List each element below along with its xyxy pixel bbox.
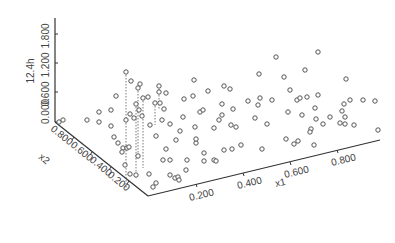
data-point <box>148 123 152 127</box>
scatter3d-plot: 0.000 0.600 1.200 1.800 12.4h 0.800 0.60… <box>0 0 395 243</box>
svg-text:0.800: 0.800 <box>330 152 357 168</box>
data-point <box>214 159 218 163</box>
data-point <box>123 163 127 167</box>
data-point <box>260 147 264 151</box>
data-point <box>239 143 243 147</box>
data-point <box>308 130 312 134</box>
z-axis-label: 12.4h <box>25 58 36 83</box>
data-point <box>256 103 260 107</box>
data-point <box>284 137 288 141</box>
data-point <box>282 75 286 79</box>
data-point <box>258 96 262 100</box>
data-point <box>120 150 124 154</box>
data-point <box>128 112 132 116</box>
data-point <box>217 118 221 122</box>
data-point <box>230 147 234 151</box>
data-point <box>292 142 296 146</box>
data-point <box>212 126 216 130</box>
data-point <box>257 72 261 76</box>
data-point <box>168 158 172 162</box>
data-point <box>193 125 197 129</box>
data-point <box>161 158 165 162</box>
data-point <box>157 84 161 88</box>
data-point <box>138 82 142 86</box>
data-point <box>313 106 317 110</box>
data-point <box>112 135 116 139</box>
data-point <box>184 168 188 172</box>
data-point <box>114 94 118 98</box>
data-point <box>177 178 181 182</box>
data-point <box>328 115 332 119</box>
data-point <box>296 139 300 143</box>
data-point <box>168 173 172 177</box>
data-point <box>157 90 161 94</box>
data-point <box>151 185 155 189</box>
data-point <box>160 118 164 122</box>
data-point <box>343 122 347 126</box>
data-point <box>314 117 318 121</box>
data-point <box>116 141 120 145</box>
svg-text:0.200: 0.200 <box>188 187 215 203</box>
data-point <box>202 151 206 155</box>
data-point <box>158 101 162 105</box>
data-point <box>61 118 65 122</box>
data-point <box>343 115 347 119</box>
data-point <box>305 95 309 99</box>
data-point <box>140 114 144 118</box>
x2-tick-labels: 0.800 0.600 0.400 0.200 <box>49 123 133 194</box>
data-point <box>303 68 307 72</box>
data-point <box>231 107 235 111</box>
z-tick-labels: 0.000 0.600 1.200 1.800 <box>40 23 51 124</box>
data-point <box>146 95 150 99</box>
data-point <box>147 172 151 176</box>
data-point <box>185 158 189 162</box>
data-point <box>192 78 196 82</box>
data-point <box>220 102 224 106</box>
data-point <box>229 123 233 127</box>
data-point <box>342 102 346 106</box>
svg-text:0.600: 0.600 <box>283 164 310 180</box>
data-point <box>265 122 269 126</box>
svg-text:0.400: 0.400 <box>236 175 263 191</box>
data-point <box>191 94 195 98</box>
svg-text:0.600: 0.600 <box>40 81 51 106</box>
data-point <box>222 84 226 88</box>
data-point <box>134 173 138 177</box>
data-point <box>153 101 157 105</box>
svg-text:1.800: 1.800 <box>40 23 51 48</box>
data-point <box>97 120 101 124</box>
data-point <box>253 116 257 120</box>
data-point <box>201 108 205 112</box>
data-point <box>168 122 172 126</box>
data-point <box>376 128 380 132</box>
data-point <box>178 129 182 133</box>
data-point <box>154 134 158 138</box>
data-point <box>124 118 128 122</box>
data-point <box>316 93 320 97</box>
data-point <box>220 113 224 117</box>
data-point <box>132 116 136 120</box>
data-point <box>97 110 101 114</box>
svg-text:1.200: 1.200 <box>40 52 51 77</box>
data-point <box>344 77 348 81</box>
data-point <box>109 108 113 112</box>
x2-axis-label: x2 <box>37 151 52 166</box>
data-point <box>288 88 292 92</box>
data-point <box>182 97 186 101</box>
data-point <box>316 50 320 54</box>
data-point <box>162 107 166 111</box>
data-point <box>340 109 344 113</box>
data-point <box>202 159 206 163</box>
data-point <box>338 121 342 125</box>
data-point <box>154 181 158 185</box>
data-point <box>181 115 185 119</box>
data-point <box>206 89 210 93</box>
data-point <box>164 91 168 95</box>
data-point <box>128 172 132 176</box>
data-point <box>321 122 325 126</box>
data-point <box>352 123 356 127</box>
data-point <box>286 110 290 114</box>
data-point <box>361 98 365 102</box>
data-point <box>270 98 274 102</box>
data-point <box>134 102 138 106</box>
